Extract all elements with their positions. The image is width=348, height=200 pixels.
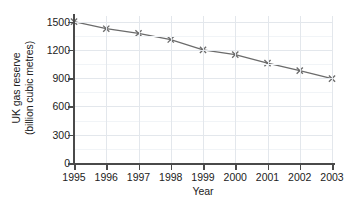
x-axis-tick-mark — [106, 165, 108, 170]
gridline-vertical — [268, 16, 269, 163]
x-axis-tick-mark — [139, 165, 141, 170]
y-axis-tick-mark — [68, 50, 74, 52]
x-axis-tick-mark — [268, 165, 270, 170]
x-axis-tick-label: 2002 — [288, 172, 311, 183]
x-axis-tick-label: 2001 — [256, 172, 279, 183]
line-chart: UK gas reserve (billion cubic metres) 03… — [0, 0, 348, 200]
x-axis-tick-label: 2000 — [224, 172, 247, 183]
x-axis-tick-label: 1995 — [62, 172, 85, 183]
x-axis-tick-label: 1997 — [127, 172, 150, 183]
x-axis-tick-mark — [300, 165, 302, 170]
x-axis-tick-mark — [332, 165, 334, 170]
x-axis-tick-mark — [235, 165, 237, 170]
x-axis-tick-label: 1996 — [95, 172, 118, 183]
gridline-vertical — [300, 16, 301, 163]
y-axis-tick-mark — [68, 78, 74, 80]
gridline-vertical — [106, 16, 107, 163]
x-axis-tick-mark — [171, 165, 173, 170]
x-axis-tick-label: 1999 — [191, 172, 214, 183]
y-axis-tick-mark — [68, 106, 74, 108]
x-axis-tick-label: 1998 — [159, 172, 182, 183]
gridline-vertical — [203, 16, 204, 163]
y-axis-title-line-1: UK gas reserve — [10, 41, 23, 135]
y-axis-title-line-2: (billion cubic metres) — [23, 41, 36, 135]
y-axis-title: UK gas reserve (billion cubic metres) — [6, 8, 40, 168]
y-axis-tick-label: 1200 — [47, 45, 70, 56]
y-axis-tick-labels: 030060090012001500 — [36, 0, 70, 200]
y-axis-tick-mark — [68, 135, 74, 137]
x-axis-title: Year — [74, 186, 332, 197]
x-axis-tick-label: 2003 — [320, 172, 343, 183]
x-axis-tick-mark — [203, 165, 205, 170]
gridline-vertical — [139, 16, 140, 163]
plot-area — [74, 16, 332, 163]
x-axis-tick-mark — [74, 165, 76, 170]
gridline-vertical — [332, 16, 333, 163]
y-axis-tick-label: 1500 — [47, 16, 70, 27]
gridline-vertical — [171, 16, 172, 163]
y-axis-line — [73, 14, 75, 165]
gridline-vertical — [235, 16, 236, 163]
y-axis-tick-mark — [68, 22, 74, 24]
